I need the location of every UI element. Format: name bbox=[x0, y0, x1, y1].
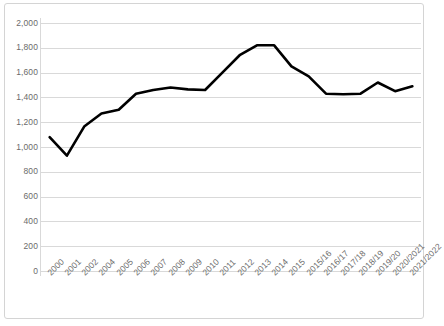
y-axis-tick-labels: 02004006008001,0001,2001,4001,6001,8002,… bbox=[5, 23, 38, 271]
series-polyline bbox=[50, 45, 413, 155]
y-axis-tick-label: 0 bbox=[4, 267, 38, 276]
y-axis-tick-label: 400 bbox=[4, 217, 38, 226]
y-axis-tick-label: 1,800 bbox=[4, 43, 38, 52]
x-axis-tick-labels: 2000200120022004200520062007200820092010… bbox=[41, 271, 421, 319]
chart-container: 02004006008001,0001,2001,4001,6001,8002,… bbox=[4, 3, 424, 319]
y-axis-tick-label: 2,000 bbox=[4, 19, 38, 28]
y-axis-tick-label: 200 bbox=[4, 242, 38, 251]
y-axis-tick-label: 800 bbox=[4, 167, 38, 176]
y-axis-tick-label: 1,600 bbox=[4, 68, 38, 77]
y-axis-tick-label: 1,000 bbox=[4, 143, 38, 152]
plot-area bbox=[41, 23, 421, 271]
y-axis-tick-label: 600 bbox=[4, 192, 38, 201]
line-series bbox=[41, 23, 421, 271]
y-axis-tick-label: 1,400 bbox=[4, 93, 38, 102]
y-axis-tick-label: 1,200 bbox=[4, 118, 38, 127]
